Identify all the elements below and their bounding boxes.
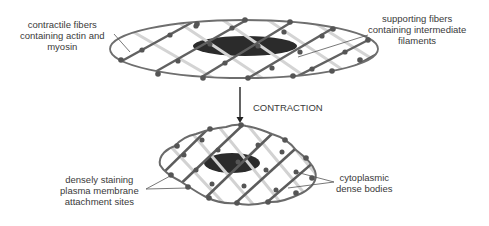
label-contractile-fibers: contractile fibers containing actin and … xyxy=(20,19,105,52)
label-contraction: CONTRACTION xyxy=(253,102,323,113)
label-supporting-fibers: supporting fibers containing intermediat… xyxy=(368,13,466,46)
label-attachment-sites: densely staining plasma membrane attachm… xyxy=(60,174,139,207)
relaxed-cell xyxy=(110,17,395,82)
contraction-arrow xyxy=(237,87,244,123)
contracted-cell xyxy=(158,122,328,210)
label-dense-bodies: cytoplasmic dense bodies xyxy=(336,172,393,194)
